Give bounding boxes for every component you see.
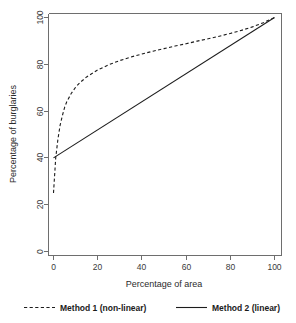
- y-tick-label: 20: [35, 200, 45, 210]
- legend-label-method-2: Method 2 (linear): [212, 303, 280, 313]
- y-tick-label: 80: [35, 60, 45, 70]
- chart-figure: 100 80 60 40 20 0 Percentage of burglari…: [0, 0, 296, 323]
- y-tick-label: 100: [35, 10, 45, 24]
- x-tick-label: 20: [93, 262, 103, 272]
- y-tick-label: 60: [35, 107, 45, 117]
- x-axis-title: Percentage of area: [126, 279, 203, 289]
- y-tick-label: 40: [35, 153, 45, 163]
- x-tick-label: 100: [267, 262, 281, 272]
- x-tick-label: 0: [51, 262, 56, 272]
- x-tick-label: 60: [182, 262, 192, 272]
- y-axis-title: Percentage of burglaries: [8, 84, 18, 183]
- legend-label-method-1: Method 1 (non-linear): [60, 303, 147, 313]
- x-tick-label: 40: [137, 262, 147, 272]
- line-chart-plot: 100 80 60 40 20 0 Percentage of burglari…: [0, 0, 296, 323]
- y-tick-label: 0: [35, 249, 45, 254]
- x-tick-label: 80: [226, 262, 236, 272]
